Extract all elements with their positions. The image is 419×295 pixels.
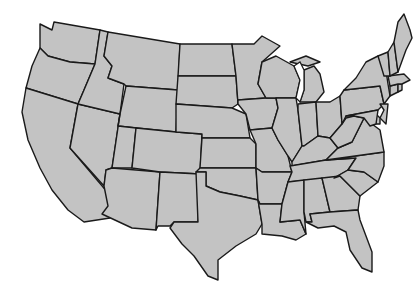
state-nd [178, 44, 236, 76]
state-mt [104, 32, 180, 90]
states-layer [22, 14, 412, 280]
state-wy [118, 86, 178, 132]
us-map [0, 0, 419, 295]
state-nj [380, 104, 388, 124]
state-ne [176, 104, 250, 138]
state-ri [398, 84, 402, 92]
state-co [132, 128, 202, 174]
state-fl [306, 210, 372, 272]
state-sd [176, 76, 238, 108]
state-me [394, 14, 412, 72]
state-az [102, 168, 160, 230]
state-ks [200, 138, 256, 168]
